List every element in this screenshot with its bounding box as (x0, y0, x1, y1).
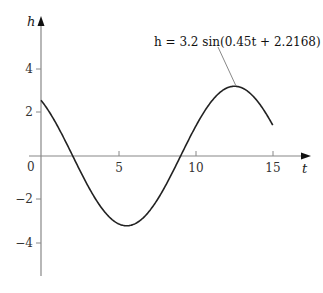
x-tick-15: 15 (265, 161, 280, 175)
x-axis-arrow-icon (301, 153, 311, 160)
sine-chart: h t 0 5 10 15 4 2 −2 −4 h = 3.2 sin(0.45… (0, 0, 323, 293)
y-tick-4: 4 (25, 62, 33, 76)
y-axis-label: h (27, 14, 35, 29)
y-tick-neg2: −2 (15, 192, 33, 206)
x-axis-label: t (302, 161, 308, 176)
y-tick-neg4: −4 (15, 236, 33, 250)
y-tick-2: 2 (25, 105, 33, 119)
origin-label: 0 (27, 160, 35, 174)
x-tick-10: 10 (188, 161, 203, 175)
equation-label: h = 3.2 sin(0.45t + 2.2168) (154, 35, 321, 49)
x-tick-5: 5 (115, 161, 123, 175)
annotation-leader (218, 47, 236, 86)
y-axis-arrow-icon (38, 16, 45, 26)
x-ticks: 5 10 15 (115, 151, 280, 175)
